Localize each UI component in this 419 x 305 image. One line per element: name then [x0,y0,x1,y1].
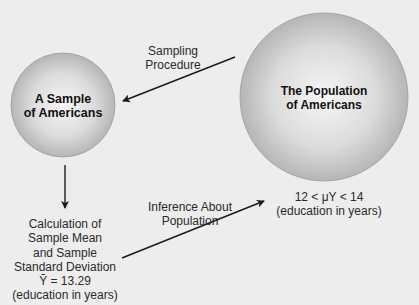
calculation-line2: Sample Mean [5,231,125,245]
sample-mean-value: Ȳ = 13.29 [5,274,125,288]
sample-node-label: A Sample of Americans [13,92,113,120]
sample-label-line2: of Americans [13,106,113,120]
sampling-procedure-label: Sampling Procedure [133,44,213,72]
population-label-line1: The Population [264,84,384,98]
population-label-line2: of Americans [264,98,384,112]
calculation-line4: Standard Deviation [5,260,125,274]
calculation-block: Calculation of Sample Mean and Sample St… [5,217,125,303]
inference-label: Inference About Population [130,200,250,228]
population-estimate: 12 < μY < 14 (education in years) [274,190,384,218]
population-interval: 12 < μY < 14 [274,190,384,204]
sample-label-line1: A Sample [13,92,113,106]
inference-label-line2: Population [130,214,250,228]
calculation-line1: Calculation of [5,217,125,231]
population-units: (education in years) [274,204,384,218]
calculation-units: (education in years) [5,288,125,302]
calculation-line3: and Sample [5,246,125,260]
sampling-label-line2: Procedure [133,58,213,72]
population-node-label: The Population of Americans [264,84,384,112]
inference-label-line1: Inference About [130,200,250,214]
sampling-label-line1: Sampling [133,44,213,58]
